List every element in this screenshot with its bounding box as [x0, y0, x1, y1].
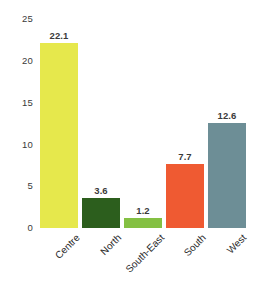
x-tick-label-north[interactable]: North	[98, 232, 123, 257]
bar-chart: 25 20 15 10 5 0 22.1 3.6 1.2	[0, 0, 258, 299]
x-axis: Centre North South-East South West	[0, 0, 258, 299]
x-tick-label-south-east[interactable]: South-East	[123, 232, 166, 275]
x-tick-label-centre[interactable]: Centre	[53, 232, 82, 261]
x-tick-label-west[interactable]: West	[225, 232, 249, 256]
x-tick-label-south[interactable]: South	[182, 232, 208, 258]
plot-area: 25 20 15 10 5 0 22.1 3.6 1.2	[0, 0, 258, 299]
